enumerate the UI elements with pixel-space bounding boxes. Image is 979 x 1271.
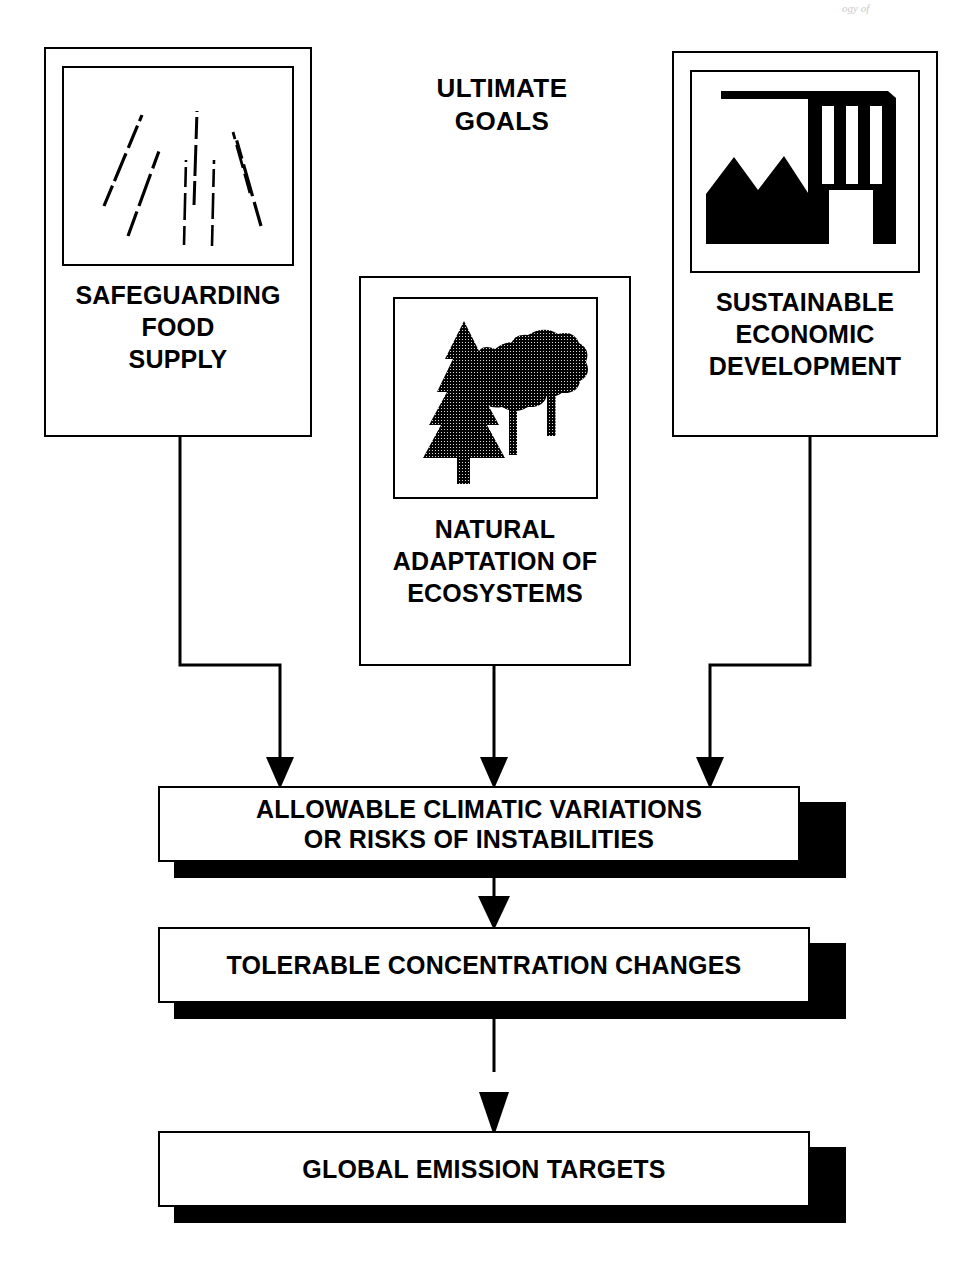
bar-box[interactable]: TOLERABLE CONCENTRATION CHANGES bbox=[158, 927, 810, 1003]
bar-box[interactable]: ALLOWABLE CLIMATIC VARIATIONS OR RISKS O… bbox=[158, 786, 800, 862]
outcome-bar-allowable-climatic-variations[interactable]: ALLOWABLE CLIMATIC VARIATIONS OR RISKS O… bbox=[158, 786, 858, 886]
arrowhead-bar1-to-bar2 bbox=[478, 896, 510, 930]
arrowhead-right-to-bar1 bbox=[696, 757, 724, 789]
arrowhead-left-to-bar1 bbox=[266, 757, 294, 789]
bar-label-line: TOLERABLE CONCENTRATION CHANGES bbox=[226, 950, 741, 981]
bar-label-line: GLOBAL EMISSION TARGETS bbox=[302, 1154, 665, 1185]
diagram-canvas: ogy of ULTIMATE GOALS bbox=[0, 0, 979, 1271]
bar-label-line: OR RISKS OF INSTABILITIES bbox=[256, 824, 702, 855]
connector-layer bbox=[0, 0, 979, 1271]
connector-right-goal-to-bar bbox=[710, 437, 810, 757]
bar-label-line: ALLOWABLE CLIMATIC VARIATIONS bbox=[256, 794, 702, 825]
arrowhead-middle-to-bar1 bbox=[480, 757, 508, 789]
outcome-bar-global-emission-targets[interactable]: GLOBAL EMISSION TARGETS bbox=[158, 1131, 858, 1241]
bar-label: GLOBAL EMISSION TARGETS bbox=[302, 1154, 665, 1185]
arrowhead-bar2-to-bar3 bbox=[479, 1092, 509, 1136]
bar-label: TOLERABLE CONCENTRATION CHANGES bbox=[226, 950, 741, 981]
bar-label: ALLOWABLE CLIMATIC VARIATIONS OR RISKS O… bbox=[256, 794, 702, 855]
outcome-bar-tolerable-concentration-changes[interactable]: TOLERABLE CONCENTRATION CHANGES bbox=[158, 927, 858, 1037]
connector-left-goal-to-bar bbox=[180, 437, 280, 757]
bar-box[interactable]: GLOBAL EMISSION TARGETS bbox=[158, 1131, 810, 1207]
